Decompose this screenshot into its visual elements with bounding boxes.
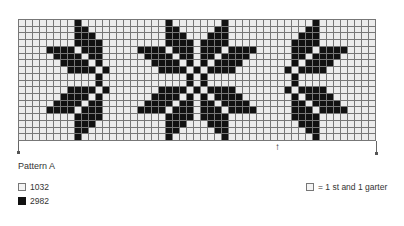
chart-cell xyxy=(138,107,144,113)
chart-cell xyxy=(173,94,179,100)
chart-cell xyxy=(54,81,60,87)
chart-cell xyxy=(243,33,249,39)
chart-cell xyxy=(285,94,291,100)
chart-cell xyxy=(54,54,60,60)
chart-cell xyxy=(222,40,228,46)
chart-cell xyxy=(152,74,158,80)
chart-cell xyxy=(194,107,200,113)
chart-cell xyxy=(327,81,333,87)
chart-cell xyxy=(96,67,102,73)
chart-cell xyxy=(75,101,81,107)
chart-cell xyxy=(271,128,277,134)
chart-cell xyxy=(110,101,116,107)
chart-cell xyxy=(40,121,46,127)
chart-cell xyxy=(47,134,53,140)
chart-cell xyxy=(264,81,270,87)
chart-cell xyxy=(68,20,74,26)
chart-cell xyxy=(257,87,263,93)
chart-cell xyxy=(19,54,25,60)
chart-cell xyxy=(40,27,46,33)
chart-cell xyxy=(334,40,340,46)
chart-cell xyxy=(236,94,242,100)
chart-cell xyxy=(257,60,263,66)
chart-cell xyxy=(166,40,172,46)
chart-cell xyxy=(208,107,214,113)
chart-cell xyxy=(159,107,165,113)
chart-cell xyxy=(26,121,32,127)
chart-cell xyxy=(369,33,375,39)
chart-cell xyxy=(187,20,193,26)
chart-cell xyxy=(348,114,354,120)
chart-cell xyxy=(320,107,326,113)
chart-cell xyxy=(173,107,179,113)
chart-cell xyxy=(341,94,347,100)
chart-cell xyxy=(292,27,298,33)
chart-cell xyxy=(201,87,207,93)
chart-cell xyxy=(229,47,235,53)
center-arrow-marker: ↑ xyxy=(275,142,280,152)
chart-cell xyxy=(138,40,144,46)
left-edge-dot xyxy=(17,151,20,154)
knitting-chart-grid xyxy=(18,19,376,141)
chart-cell xyxy=(271,74,277,80)
chart-cell xyxy=(145,87,151,93)
chart-cell xyxy=(89,47,95,53)
chart-cell xyxy=(201,47,207,53)
chart-cell xyxy=(180,114,186,120)
chart-cell xyxy=(271,101,277,107)
chart-cell xyxy=(292,81,298,87)
chart-cell xyxy=(124,27,130,33)
chart-cell xyxy=(82,107,88,113)
chart-cell xyxy=(201,67,207,73)
chart-cell xyxy=(362,94,368,100)
chart-cell xyxy=(306,67,312,73)
chart-cell xyxy=(75,33,81,39)
chart-cell xyxy=(47,101,53,107)
chart-cell xyxy=(47,67,53,73)
chart-cell xyxy=(89,107,95,113)
chart-cell xyxy=(215,81,221,87)
chart-cell xyxy=(362,128,368,134)
chart-cell xyxy=(341,20,347,26)
chart-cell xyxy=(278,33,284,39)
chart-cell xyxy=(320,20,326,26)
chart-cell xyxy=(278,81,284,87)
chart-cell xyxy=(320,128,326,134)
chart-cell xyxy=(40,114,46,120)
chart-cell xyxy=(96,101,102,107)
chart-cell xyxy=(327,74,333,80)
chart-cell xyxy=(271,94,277,100)
chart-cell xyxy=(348,33,354,39)
chart-cell xyxy=(306,121,312,127)
chart-cell xyxy=(124,67,130,73)
chart-cell xyxy=(75,121,81,127)
chart-cell xyxy=(68,40,74,46)
chart-cell xyxy=(26,40,32,46)
chart-cell xyxy=(362,67,368,73)
chart-cell xyxy=(229,27,235,33)
chart-cell xyxy=(19,27,25,33)
chart-cell xyxy=(299,74,305,80)
chart-cell xyxy=(341,128,347,134)
chart-cell xyxy=(229,87,235,93)
chart-cell xyxy=(131,94,137,100)
chart-cell xyxy=(320,74,326,80)
chart-cell xyxy=(68,121,74,127)
chart-cell xyxy=(82,87,88,93)
chart-cell xyxy=(33,27,39,33)
chart-cell xyxy=(89,27,95,33)
chart-cell xyxy=(173,67,179,73)
chart-cell xyxy=(313,74,319,80)
chart-cell xyxy=(243,74,249,80)
chart-cell xyxy=(47,27,53,33)
chart-cell xyxy=(138,134,144,140)
chart-cell xyxy=(89,87,95,93)
chart-cell xyxy=(306,107,312,113)
chart-cell xyxy=(166,27,172,33)
chart-cell xyxy=(236,114,242,120)
chart-cell xyxy=(117,33,123,39)
chart-cell xyxy=(166,107,172,113)
chart-cell xyxy=(215,47,221,53)
chart-cell xyxy=(75,60,81,66)
chart-cell xyxy=(19,101,25,107)
